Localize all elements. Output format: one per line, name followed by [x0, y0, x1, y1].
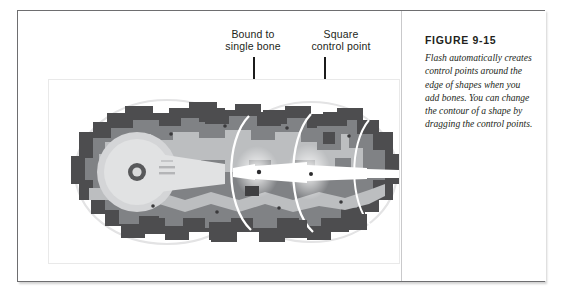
callout-label-bound-to-single-bone: Bound to single bone — [210, 28, 296, 53]
control-point-dot — [223, 124, 227, 128]
control-point-dot — [285, 126, 289, 130]
hub-tick-3 — [161, 160, 173, 162]
figure-title: FIGURE 9-15 — [425, 34, 537, 46]
control-point-dot-selected — [257, 170, 261, 174]
caption-column: FIGURE 9-15 Flash automatically creates … — [401, 11, 546, 281]
artwork-frame — [48, 79, 400, 264]
figure-caption-text: Flash automatically creates control poin… — [425, 51, 537, 131]
control-point-dot — [277, 206, 281, 210]
callout-label-bound-line1: Bound to — [210, 28, 296, 40]
tooth-top-1 — [199, 108, 225, 122]
illustration-region: Bound to single bone Square control poin… — [18, 11, 401, 281]
tooth-bottom-1 — [141, 218, 165, 234]
control-point-dot — [151, 204, 155, 208]
callout-label-square-line1: Square — [294, 28, 388, 40]
control-point-square-inner — [323, 132, 335, 144]
bound-to-single-bone-marker[interactable] — [245, 186, 259, 196]
tooth-bottom-4 — [345, 214, 367, 230]
figure-screenshot: Bound to single bone Square control poin… — [0, 0, 565, 294]
control-point-dot — [347, 134, 351, 138]
bone-segment-4 — [367, 169, 400, 178]
control-point-dot — [339, 200, 343, 204]
hub-tick-1 — [159, 166, 175, 168]
tooth-bottom-2 — [209, 222, 235, 240]
callout-label-square-line2: control point — [294, 40, 388, 52]
tooth-top-2 — [263, 110, 287, 124]
tooth-top-3 — [323, 112, 347, 126]
caption-divider-rule — [401, 11, 402, 281]
callout-label-bound-line2: single bone — [210, 40, 296, 52]
gear-shape-illustration — [49, 80, 400, 264]
control-point-dot — [309, 172, 313, 176]
bound-bone-nub — [245, 186, 259, 196]
figure-frame: Bound to single bone Square control poin… — [17, 10, 545, 282]
callout-label-square-control-point: Square control point — [294, 28, 388, 53]
hub-tick-2 — [159, 172, 175, 174]
tooth-bottom-3 — [281, 220, 307, 238]
control-point-dot — [169, 132, 173, 136]
hub-center-hole — [132, 167, 141, 176]
square-control-point-marker[interactable] — [317, 126, 341, 150]
control-point-dot — [215, 210, 219, 214]
